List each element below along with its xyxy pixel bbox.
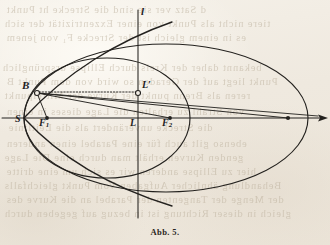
label-f2-subscript: 2 bbox=[169, 121, 172, 128]
label-directrix-l: l bbox=[141, 5, 144, 17]
label-f1-base: F bbox=[39, 117, 46, 128]
point-b-marker bbox=[35, 91, 40, 96]
figure-caption: Abb. 5. bbox=[0, 227, 330, 237]
label-point-f2: F2 bbox=[162, 117, 172, 128]
label-point-b: B bbox=[22, 79, 29, 91]
point-right-focus-marker bbox=[286, 116, 290, 120]
label-point-f1: F1 bbox=[39, 117, 49, 128]
line-b-to-f2 bbox=[37, 93, 170, 118]
label-point-l-prime: L′ bbox=[142, 79, 151, 90]
label-f2-base: F bbox=[162, 117, 169, 128]
label-point-l: L bbox=[130, 117, 136, 128]
figure-page: d Satz ver sie sind die Strecke ht Punkt… bbox=[0, 0, 330, 245]
label-f1-subscript: 1 bbox=[46, 121, 49, 128]
line-b-to-axis-right bbox=[37, 93, 318, 116]
line-b-to-right-dot bbox=[37, 93, 288, 118]
label-point-s: S bbox=[15, 113, 21, 124]
point-l-prime-marker bbox=[136, 91, 141, 96]
